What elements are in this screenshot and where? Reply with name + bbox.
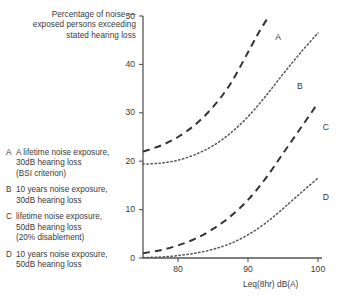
curve-label-b: B (297, 81, 303, 91)
x-tick-label: 80 (167, 264, 189, 274)
figure: Percentage of noise — exposed persons ex… (0, 0, 339, 299)
curve-label-a: A (275, 32, 281, 42)
x-tick-label: 90 (237, 264, 259, 274)
y-tick-label: 50 (115, 11, 135, 21)
plot-area (0, 0, 339, 299)
x-axis-label: Leq(8hr) dB(A) (243, 279, 298, 289)
chart-canvas (0, 0, 339, 299)
y-tick-label: 30 (115, 107, 135, 117)
y-tick-label: 10 (115, 204, 135, 214)
y-tick-label: 20 (115, 156, 135, 166)
y-tick-label: 0 (115, 253, 135, 263)
y-tick-label: 40 (115, 59, 135, 69)
curve-label-d: D (323, 192, 329, 202)
x-tick-label: 100 (307, 264, 329, 274)
curve-label-c: C (323, 122, 329, 132)
